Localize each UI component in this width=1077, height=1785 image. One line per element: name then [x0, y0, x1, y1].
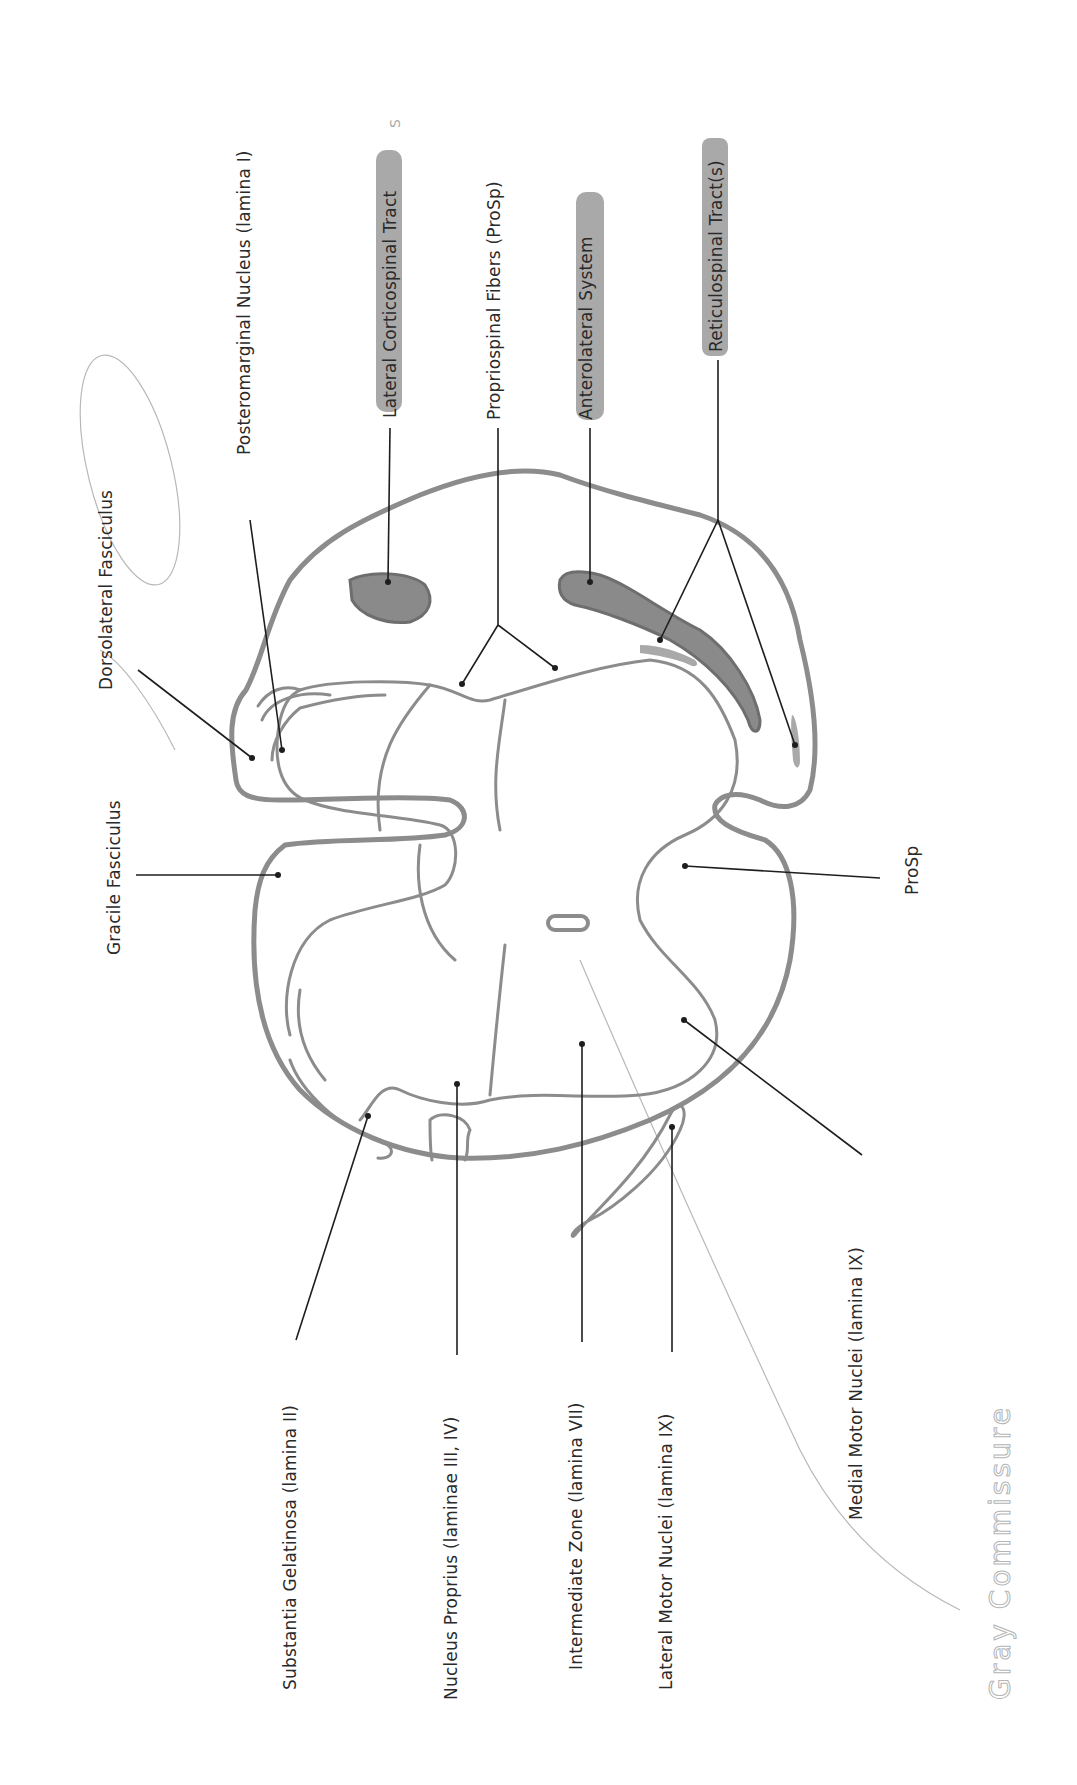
label-propriospinal-fibers: Propriospinal Fibers (ProSp): [484, 181, 504, 420]
label-gracile-fasciculus: Gracile Fasciculus: [104, 800, 124, 955]
gray-matter-outline: [277, 660, 737, 1120]
svg-text:S: S: [387, 119, 403, 128]
label-medial-motor-nuclei: Medial Motor Nuclei (lamina IX): [846, 1247, 866, 1520]
label-lateral-corticospinal-tract: Lateral Corticospinal Tract: [380, 191, 400, 418]
handwritten-gray-commissure: Gray Commissure: [984, 1405, 1017, 1700]
label-prosp: ProSp: [902, 845, 922, 895]
spinal-cord-outline: [232, 471, 815, 1158]
label-intermediate-zone: Intermediate Zone (lamina VII): [566, 1402, 586, 1670]
svg-text:Nucleus Proprius (laminae III,: Nucleus Proprius (laminae III, IV): [441, 1416, 461, 1700]
svg-text:Intermediate Zone (lamina VII): Intermediate Zone (lamina VII): [566, 1402, 586, 1670]
lamina-divider-1: [378, 685, 430, 830]
svg-text:Reticulospinal Tract(s): Reticulospinal Tract(s): [706, 160, 726, 352]
pencil-circle: [61, 345, 200, 594]
label-nucleus-proprius: Nucleus Proprius (laminae III, IV): [441, 1416, 461, 1700]
label-reticulospinal-tracts: Reticulospinal Tract(s): [706, 160, 726, 352]
central-canal: [548, 916, 588, 930]
label-dorsolateral-fasciculus: Dorsolateral Fasciculus: [96, 490, 116, 690]
svg-text:Posteromarginal Nucleus (lamin: Posteromarginal Nucleus (lamina I): [234, 150, 254, 455]
svg-text:Dorsolateral Fasciculus: Dorsolateral Fasciculus: [96, 490, 116, 690]
svg-text:ProSp: ProSp: [902, 845, 922, 895]
handwritten-margin-mark: S: [387, 119, 403, 128]
spinal-cord-diagram: Dorsolateral Fasciculus Posteromarginal …: [0, 0, 1077, 1785]
reticulospinal-tract-region-2: [791, 715, 800, 768]
svg-text:Gracile Fasciculus: Gracile Fasciculus: [104, 800, 124, 955]
label-anterolateral-system: Anterolateral System: [576, 236, 596, 420]
leader-lines: [136, 360, 880, 1355]
pencil-leader-gray-commissure: [580, 960, 960, 1610]
lamina-divider-2: [418, 700, 505, 960]
svg-text:Gray Commissure: Gray Commissure: [984, 1405, 1017, 1700]
svg-text:Lateral Motor Nuclei (lamina I: Lateral Motor Nuclei (lamina IX): [656, 1413, 676, 1690]
label-substantia-gelatinosa: Substantia Gelatinosa (lamina II): [280, 1405, 300, 1690]
svg-text:Lateral Corticospinal Tract: Lateral Corticospinal Tract: [380, 191, 400, 418]
lamina-divider-3: [430, 945, 505, 1160]
ventral-horn-lobe: [572, 1106, 684, 1237]
substantia-gelatinosa-band: [290, 990, 391, 1158]
svg-text:Substantia Gelatinosa (lamina: Substantia Gelatinosa (lamina II): [280, 1405, 300, 1690]
svg-text:Medial Motor Nuclei (lamina IX: Medial Motor Nuclei (lamina IX): [846, 1247, 866, 1520]
svg-text:Propriospinal Fibers (ProSp): Propriospinal Fibers (ProSp): [484, 181, 504, 420]
label-lateral-motor-nuclei: Lateral Motor Nuclei (lamina IX): [656, 1413, 676, 1690]
label-posteromarginal-nucleus: Posteromarginal Nucleus (lamina I): [234, 150, 254, 455]
svg-text:Anterolateral System: Anterolateral System: [576, 236, 596, 420]
